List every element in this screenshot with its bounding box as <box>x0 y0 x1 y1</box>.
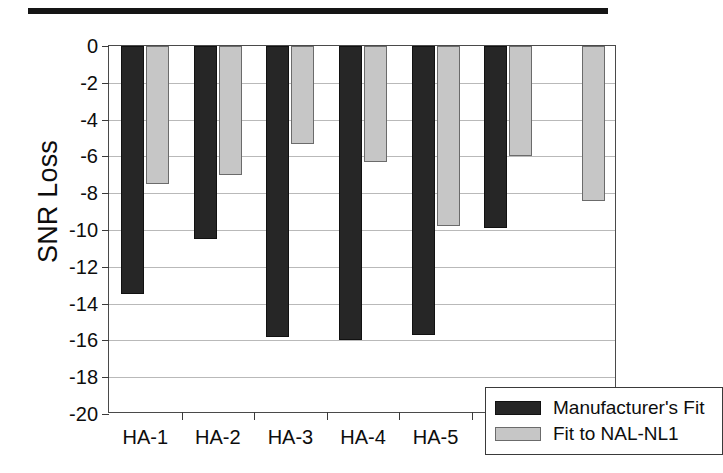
y-tick-mark <box>102 193 109 194</box>
bar-ha-6-series-1 <box>509 46 532 156</box>
y-tick-mark <box>102 267 109 268</box>
bar-ha-5-series-0 <box>412 46 435 335</box>
y-tick-mark <box>102 230 109 231</box>
y-tick-mark <box>102 83 109 84</box>
bar-ha-2-series-1 <box>219 46 242 175</box>
y-tick-mark <box>102 46 109 47</box>
x-tick-label-ha-1: HA-1 <box>122 426 168 449</box>
y-tick-label: -4 <box>80 108 98 131</box>
gridline <box>109 156 615 157</box>
y-tick-label: 0 <box>87 35 98 58</box>
x-tick-label-ha-2: HA-2 <box>195 426 241 449</box>
x-tick-label-ha-3: HA-3 <box>268 426 314 449</box>
bar-ha-6-series-0 <box>484 46 507 228</box>
gridline <box>109 304 615 305</box>
x-tick-mark <box>472 412 473 420</box>
y-tick-label: -10 <box>69 219 98 242</box>
legend-label-manufacturers-fit: Manufacturer's Fit <box>553 397 704 419</box>
legend-swatch-fit-to-nal-nl1 <box>495 427 541 441</box>
gridline <box>109 377 615 378</box>
y-tick-label: -20 <box>69 403 98 426</box>
y-tick-label: -8 <box>80 182 98 205</box>
y-tick-label: -6 <box>80 145 98 168</box>
bar-ha-1-series-1 <box>146 46 169 184</box>
bar-ha-3-series-1 <box>291 46 314 144</box>
legend-item: Manufacturer's Fit <box>495 395 713 421</box>
x-tick-label-ha-4: HA-4 <box>340 426 386 449</box>
bar-ha-4-series-0 <box>339 46 362 340</box>
y-tick-mark <box>102 414 109 415</box>
x-tick-mark <box>327 412 328 420</box>
top-scan-band <box>28 8 608 14</box>
x-tick-label-ha-5: HA-5 <box>413 426 459 449</box>
bar-old-series-1 <box>582 46 605 201</box>
y-tick-label: -2 <box>80 71 98 94</box>
gridline <box>109 120 615 121</box>
y-axis-title: SNR Loss <box>33 102 64 302</box>
y-tick-label: -12 <box>69 255 98 278</box>
x-tick-mark <box>254 412 255 420</box>
y-tick-mark <box>102 377 109 378</box>
legend-item: Fit to NAL-NL1 <box>495 421 713 447</box>
bar-ha-1-series-0 <box>121 46 144 294</box>
gridline <box>109 340 615 341</box>
legend-swatch-manufacturers-fit <box>495 401 541 415</box>
legend-label-fit-to-nal-nl1: Fit to NAL-NL1 <box>553 423 679 445</box>
gridline <box>109 193 615 194</box>
x-tick-mark <box>399 412 400 420</box>
bar-ha-3-series-0 <box>266 46 289 337</box>
y-tick-label: -16 <box>69 329 98 352</box>
y-tick-mark <box>102 304 109 305</box>
y-tick-mark <box>102 340 109 341</box>
bar-ha-4-series-1 <box>364 46 387 162</box>
chart-legend: Manufacturer's Fit Fit to NAL-NL1 <box>485 387 723 455</box>
plot-area: 0-2-4-6-8-10-12-14-16-18-20 HA-1HA-2HA-3… <box>108 45 616 413</box>
gridline <box>109 267 615 268</box>
y-tick-label: -18 <box>69 366 98 389</box>
y-tick-label: -14 <box>69 292 98 315</box>
gridline <box>109 83 615 84</box>
bar-ha-2-series-0 <box>194 46 217 239</box>
y-tick-mark <box>102 156 109 157</box>
x-tick-mark <box>182 412 183 420</box>
gridline <box>109 230 615 231</box>
bar-ha-5-series-1 <box>437 46 460 226</box>
y-tick-mark <box>102 120 109 121</box>
